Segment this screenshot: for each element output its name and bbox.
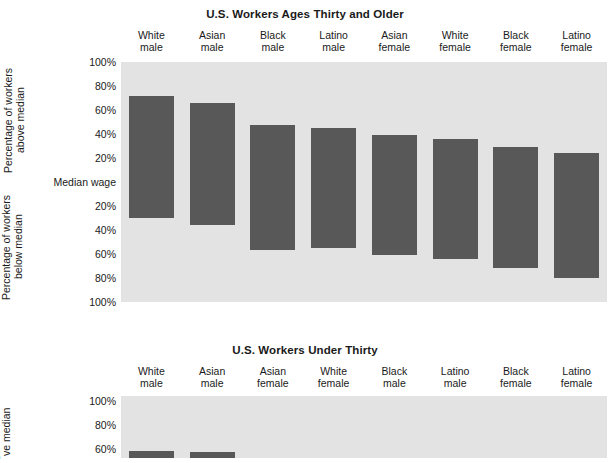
chart1-y-tick-label: 20% [30, 200, 116, 212]
chart2-category-label: Latino female [546, 366, 607, 389]
chart1-category-label: Asian male [182, 30, 243, 53]
chart2-category-label: Asian male [182, 366, 243, 389]
chart2-y-tick-label: 60% [30, 443, 116, 455]
chart1-bar [554, 153, 599, 278]
chart2-category-label: Black female [486, 366, 547, 389]
chart2-category-labels: White maleAsian maleAsian femaleWhite fe… [0, 366, 610, 392]
chart1-y-tick-label: 100% [30, 56, 116, 68]
chart1-title: U.S. Workers Ages Thirty and Older [0, 8, 610, 20]
chart1-y-tick-label: 80% [30, 272, 116, 284]
chart2-y-tick-label: 80% [30, 419, 116, 431]
chart1-plot-area [121, 62, 607, 302]
chart1-y-tick-label: 40% [30, 128, 116, 140]
chart1-y-axis-label-below-median: Percentage of workers below median [0, 186, 28, 308]
chart1-category-label: White female [425, 30, 486, 53]
chart1-y-axis-label-above-median: Percentage of workers above median [2, 60, 30, 180]
chart2-category-label: Latino male [425, 366, 486, 389]
chart1-median-wage-label: Median wage [30, 176, 116, 188]
chart2-category-label: Black male [364, 366, 425, 389]
chart1-category-labels: White maleAsian maleBlack maleLatino mal… [0, 30, 610, 56]
chart1-category-label: Asian female [364, 30, 425, 53]
chart1-y-tick-label: 80% [30, 80, 116, 92]
chart1-bar [493, 147, 538, 268]
chart1-y-tick-label: 60% [30, 248, 116, 260]
chart1-bar [311, 128, 356, 248]
chart1-category-label: Black male [243, 30, 304, 53]
chart1-y-tick-label: 20% [30, 152, 116, 164]
chart-workers-thirty-and-older: U.S. Workers Ages Thirty and Older Perce… [0, 0, 610, 310]
chart2-title: U.S. Workers Under Thirty [0, 344, 610, 356]
chart1-bar [190, 103, 235, 225]
chart1-category-label: Black female [486, 30, 547, 53]
chart1-category-label: White male [121, 30, 182, 53]
chart-workers-under-thirty: U.S. Workers Under Thirty age of workers… [0, 330, 610, 458]
chart2-bar [129, 451, 174, 458]
chart2-y-tick-label: 100% [30, 395, 116, 407]
chart1-y-tick-label: 60% [30, 104, 116, 116]
chart1-bar [433, 139, 478, 259]
chart2-category-label: White male [121, 366, 182, 389]
chart2-bar [190, 452, 235, 458]
chart1-y-tick-label: 40% [30, 224, 116, 236]
chart1-bar [372, 135, 417, 255]
chart1-category-label: Latino male [303, 30, 364, 53]
chart2-category-label: Asian female [243, 366, 304, 389]
chart1-bar [129, 96, 174, 218]
chart1-y-tick-label: 100% [30, 296, 116, 308]
chart2-plot-area [121, 396, 607, 458]
chart2-category-label: White female [303, 366, 364, 389]
chart1-bar [250, 125, 295, 250]
chart1-category-label: Latino female [546, 30, 607, 53]
